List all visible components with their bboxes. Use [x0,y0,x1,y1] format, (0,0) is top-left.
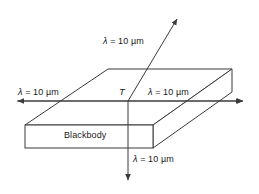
emission-label-left: λ = 10 µm [18,88,59,97]
emission-label-bottom: λ = 10 µm [133,155,174,164]
figure-canvas [0,0,259,194]
temperature-symbol-label: T [119,87,125,97]
emission-label-top: λ = 10 µm [103,37,144,46]
emission-label-right: λ = 10 µm [148,88,189,97]
blackbody-object-label: Blackbody [64,131,106,140]
blackbody-radiation-figure: λ = 10 µm λ = 10 µm λ = 10 µm λ = 10 µm … [0,0,259,194]
